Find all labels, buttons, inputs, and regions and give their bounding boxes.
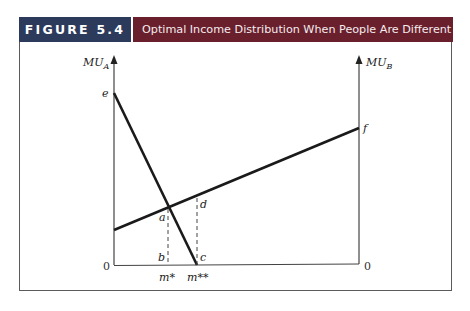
left-axis-arrow-icon — [111, 55, 118, 64]
right-axis-arrow-icon — [356, 55, 363, 64]
mu-b-curve — [114, 128, 359, 230]
horizontal-axis — [114, 264, 359, 266]
point-c-label: c — [200, 251, 206, 264]
point-e-label: e — [102, 87, 109, 100]
mu-a-curve — [114, 93, 197, 265]
origin-right-label: 0 — [364, 260, 371, 273]
right-axis-label: MUB — [365, 56, 393, 71]
origin-left-label: 0 — [103, 260, 110, 273]
chart-plot: MUA MUB e f a d b c m* m** 0 0 — [0, 0, 470, 311]
point-b-label: b — [158, 251, 165, 264]
point-a-label: a — [159, 211, 166, 224]
point-d-label: d — [200, 198, 207, 211]
m-star-star-label: m** — [187, 271, 209, 284]
left-axis-label: MUA — [82, 56, 110, 71]
point-f-label: f — [362, 122, 369, 135]
m-star-label: m* — [159, 271, 175, 284]
